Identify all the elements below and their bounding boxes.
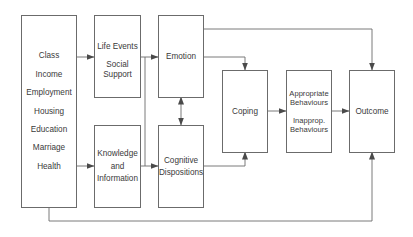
- label-class: Class: [39, 51, 59, 61]
- node-life-events: Life Events Social Support: [94, 15, 141, 98]
- label-social: Social: [106, 60, 128, 70]
- arrow-emotion-to-outcome: [203, 29, 372, 70]
- label-cognitive: Cognitive: [164, 156, 198, 166]
- label-emotion: Emotion: [166, 52, 196, 62]
- label-and: and: [111, 162, 125, 172]
- label-behaviours-2: Behaviours: [290, 125, 328, 134]
- node-socio-demographics: Class Income Employment Housing Educatio…: [21, 15, 77, 208]
- node-cognitive-dispositions: Cognitive Dispositions: [158, 125, 204, 208]
- arrow-cognitive-to-coping: [203, 152, 245, 166]
- label-income: Income: [36, 70, 63, 80]
- label-health: Health: [37, 162, 61, 172]
- label-outcome: Outcome: [355, 107, 388, 117]
- arrow-emotion-to-coping: [203, 57, 245, 70]
- label-housing: Housing: [34, 107, 64, 117]
- label-education: Education: [31, 125, 67, 135]
- node-outcome: Outcome: [349, 70, 395, 153]
- node-emotion: Emotion: [158, 15, 204, 98]
- node-coping: Coping: [222, 70, 268, 153]
- diagram-canvas: Class Income Employment Housing Educatio…: [0, 0, 413, 237]
- label-dispositions: Dispositions: [159, 168, 203, 178]
- label-information: Information: [97, 174, 138, 184]
- label-employment: Employment: [26, 88, 72, 98]
- label-marriage: Marriage: [33, 143, 65, 153]
- label-coping: Coping: [232, 107, 258, 117]
- label-knowledge: Knowledge: [97, 149, 138, 159]
- node-knowledge: Knowledge and Information: [94, 125, 141, 208]
- node-behaviours: Appropriate Behaviours Inapprop. Behavio…: [286, 70, 332, 153]
- label-inapprop: Inapprop.: [293, 116, 325, 125]
- label-life-events: Life Events: [97, 42, 138, 52]
- label-appropriate: Appropriate: [289, 89, 328, 98]
- label-support: Support: [103, 70, 132, 80]
- label-behaviours-1: Behaviours: [290, 98, 328, 107]
